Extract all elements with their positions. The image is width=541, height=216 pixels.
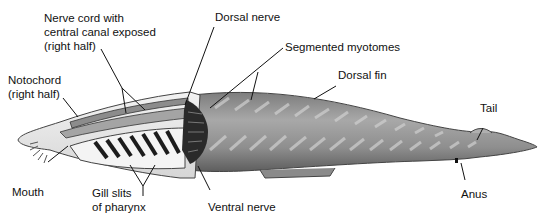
label-ventral-nerve: Ventral nerve: [208, 200, 276, 214]
label-segmented-myotomes: Segmented myotomes: [285, 40, 400, 54]
label-dorsal-fin: Dorsal fin: [338, 68, 387, 82]
label-mouth: Mouth: [12, 185, 44, 199]
label-gill-slits: Gill slits of pharynx: [92, 186, 146, 214]
label-nerve-cord: Nerve cord with central canal exposed (r…: [44, 11, 156, 53]
label-dorsal-nerve: Dorsal nerve: [215, 10, 280, 24]
label-anus: Anus: [461, 187, 487, 201]
label-tail: Tail: [480, 101, 497, 115]
label-notochord: Notochord (right half): [8, 73, 61, 101]
anus-mark: [455, 158, 458, 163]
